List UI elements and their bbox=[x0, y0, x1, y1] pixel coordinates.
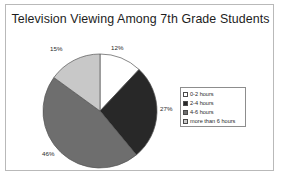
chart-title: Television Viewing Among 7th Grade Stude… bbox=[0, 12, 281, 26]
legend-label-more-than-6-hours: more than 6 hours bbox=[190, 117, 235, 126]
legend-swatch-icon-4-6-hours bbox=[183, 110, 188, 115]
pie-plot-area bbox=[42, 53, 158, 169]
legend-swatch-icon-more-than-6-hours bbox=[183, 119, 188, 124]
legend-swatch-icon-2-4-hours bbox=[183, 101, 188, 106]
chart-legend: 0-2 hours 2-4 hours 4-6 hours more than … bbox=[180, 87, 246, 127]
legend-swatch-icon-0-2-hours bbox=[183, 92, 188, 97]
slice-label-more-than-6-hours: 15% bbox=[50, 45, 62, 52]
pie-slices bbox=[43, 54, 157, 168]
legend-item-more-than-6-hours: more than 6 hours bbox=[183, 117, 245, 126]
slice-label-4-6-hours: 46% bbox=[42, 150, 54, 157]
legend-item-0-2-hours: 0-2 hours bbox=[183, 90, 245, 99]
legend-label-4-6-hours: 4-6 hours bbox=[190, 108, 214, 117]
slice-label-2-4-hours: 27% bbox=[160, 105, 172, 112]
legend-item-2-4-hours: 2-4 hours bbox=[183, 99, 245, 108]
legend-label-0-2-hours: 0-2 hours bbox=[190, 90, 214, 99]
pie-svg bbox=[42, 53, 158, 169]
legend-item-4-6-hours: 4-6 hours bbox=[183, 108, 245, 117]
slice-label-0-2-hours: 12% bbox=[111, 44, 123, 51]
legend-label-2-4-hours: 2-4 hours bbox=[190, 99, 214, 108]
pie-chart-figure: Television Viewing Among 7th Grade Stude… bbox=[0, 0, 281, 178]
